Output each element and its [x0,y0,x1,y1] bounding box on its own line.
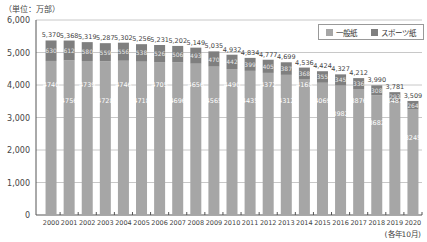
bar-general [208,67,219,215]
general-value-label: 4756 [61,97,78,105]
bar-general [371,95,382,215]
general-value-label: 4740 [43,81,60,89]
general-value-label: 4746 [115,81,132,89]
bar-general [389,102,400,215]
general-value-label: 4696 [169,97,186,105]
legend: 一般紙 スポーツ紙 [318,24,424,40]
total-label: 4,777 [259,51,278,59]
total-label: 4,699 [277,53,296,61]
period-label: (各年10月) [385,228,421,239]
x-tick-label: 2005 [133,219,150,227]
sports-value-label: 387 [281,65,293,72]
x-tick-label: 2000 [43,219,60,227]
x-tick-label: 2009 [206,219,223,227]
total-label: 5,319 [78,33,97,41]
legend-label-general: 一般紙 [336,27,357,38]
bar-general [245,71,256,215]
total-label: 5,302 [114,34,133,42]
bar-general [136,62,147,215]
bar-general [172,62,183,215]
sports-value-label: 556 [118,48,130,55]
total-label: 5,202 [168,37,187,45]
general-value-label: 4435 [242,97,259,105]
general-value-label: 4728 [97,97,114,105]
legend-swatch-sports [371,29,378,36]
bar-general [299,80,310,215]
general-value-label: 4372 [260,81,277,89]
x-tick-label: 2007 [169,219,186,227]
general-value-label: 4069 [314,97,331,105]
x-tick-label: 2015 [314,219,331,227]
total-label: 4,834 [241,49,260,57]
legend-item-general: 一般紙 [326,27,357,38]
x-tick-label: 2020 [405,219,422,227]
x-tick-label: 2012 [260,219,277,227]
sports-value-label: 355 [317,73,329,80]
sports-value-label: 493 [190,52,202,59]
general-value-label: 3876 [350,97,367,105]
sports-value-label: 405 [262,63,274,70]
sports-value-label: 506 [172,51,184,58]
sports-value-label: 308 [371,87,383,94]
sports-value-label: 630 [45,47,57,54]
y-tick-label: 2,000 [7,146,30,155]
general-value-label: 3245 [405,134,422,142]
total-label: 4,327 [331,65,350,73]
general-value-label: 4718 [133,97,150,105]
sports-value-label: 538 [136,49,148,56]
y-tick-label: 3,000 [7,114,30,123]
total-label: 5,256 [132,35,151,43]
general-value-label: 4565 [206,97,223,105]
sports-value-label: 368 [299,70,311,77]
total-label: 4,536 [295,59,314,67]
general-value-label: 4656 [188,81,205,89]
general-value-label: 4312 [278,97,295,105]
bar-general [281,75,292,215]
total-label: 3,781 [386,83,405,91]
legend-swatch-general [326,29,333,36]
legend-item-sports: スポーツ紙 [371,27,416,38]
x-tick-label: 2018 [368,219,385,227]
total-label: 5,035 [205,42,224,50]
sports-value-label: 399 [244,61,256,68]
x-tick-label: 2006 [151,219,168,227]
total-label: 5,287 [96,34,115,42]
total-label: 4,212 [349,69,368,77]
legend-label-sports: スポーツ紙 [381,27,416,38]
general-value-label: 4739 [79,81,96,89]
x-tick-label: 2001 [61,219,78,227]
x-tick-label: 2008 [188,219,205,227]
sports-value-label: 559 [100,49,112,56]
x-tick-label: 2010 [224,219,241,227]
bar-general [335,86,346,215]
total-label: 4,932 [223,46,242,54]
general-value-label: 3682 [368,119,385,127]
x-tick-label: 2011 [242,219,259,227]
sports-value-label: 612 [63,47,75,54]
sports-value-label: 580 [82,48,94,55]
general-value-label: 4168 [296,81,313,89]
sports-value-label: 336 [353,80,365,87]
bar-general [64,60,75,215]
general-value-label: 3982 [332,110,349,118]
total-label: 5,368 [60,32,79,40]
x-tick-label: 2014 [296,219,313,227]
total-label: 3,990 [367,76,386,84]
sports-value-label: 442 [226,58,238,65]
y-tick-label: 1,000 [7,179,30,188]
x-tick-label: 2003 [97,219,114,227]
x-tick-label: 2016 [332,219,349,227]
sports-value-label: 345 [335,76,347,83]
sports-value-label: 470 [208,56,220,63]
total-label: 3,509 [404,92,423,100]
x-tick-label: 2017 [350,219,367,227]
x-tick-label: 2019 [387,219,404,227]
bar-general [227,69,238,215]
sports-value-label: 526 [154,50,166,57]
y-tick-label: 4,000 [7,81,30,90]
general-value-label: 4490 [224,81,241,89]
bar-general [100,61,111,215]
bar-general [263,73,274,215]
x-tick-label: 2002 [79,219,96,227]
total-label: 5,149 [187,39,206,47]
